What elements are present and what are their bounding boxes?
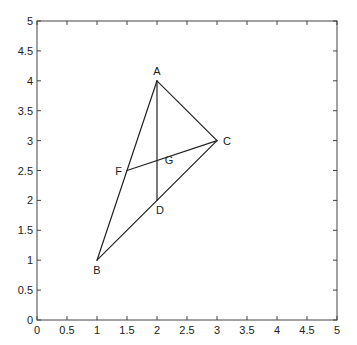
point-label-g: G: [165, 154, 174, 166]
x-tick-label: 1: [94, 324, 100, 336]
segment-ca: [157, 81, 217, 141]
point-label-b: B: [93, 264, 100, 276]
y-tick-label: 4: [27, 75, 33, 87]
point-labels: ABCDFG: [93, 65, 231, 276]
y-tick-label: 0.5: [18, 284, 33, 296]
y-tick-label: 2.5: [18, 165, 33, 177]
x-tick-label: 4: [274, 324, 280, 336]
y-tick-label: 2: [27, 194, 33, 206]
y-tick-label: 1.5: [18, 224, 33, 236]
y-tick-label: 3: [27, 135, 33, 147]
y-tick-label: 4.5: [18, 45, 33, 57]
y-axis-ticks: 00.511.522.533.544.55: [18, 15, 337, 326]
x-tick-label: 5: [334, 324, 340, 336]
point-label-c: C: [223, 135, 231, 147]
x-tick-label: 2.5: [179, 324, 194, 336]
x-tick-label: 3: [214, 324, 220, 336]
y-tick-label: 5: [27, 15, 33, 27]
y-tick-label: 1: [27, 254, 33, 266]
y-tick-label: 3.5: [18, 105, 33, 117]
x-tick-label: 0: [34, 324, 40, 336]
x-tick-label: 4.5: [299, 324, 314, 336]
geometry-figure: 00.511.522.533.544.55 00.511.522.533.544…: [0, 0, 357, 345]
x-tick-label: 3.5: [239, 324, 254, 336]
point-label-a: A: [153, 65, 161, 77]
y-tick-label: 0: [27, 314, 33, 326]
x-tick-label: 1.5: [119, 324, 134, 336]
point-label-d: D: [156, 204, 164, 216]
x-tick-label: 2: [154, 324, 160, 336]
x-axis-ticks: 00.511.522.533.544.55: [34, 21, 340, 336]
x-tick-label: 0.5: [59, 324, 74, 336]
point-label-f: F: [115, 165, 122, 177]
